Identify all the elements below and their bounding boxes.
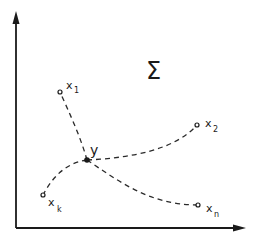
- label-x1: x 1: [66, 79, 79, 95]
- label-x2-sub: 2: [213, 125, 218, 134]
- point-x2-marker: [195, 123, 199, 127]
- geodesic-curves: [43, 92, 198, 205]
- endpoints: [41, 90, 200, 207]
- label-x2: x 2: [205, 117, 218, 134]
- label-xk-sub: k: [57, 205, 62, 214]
- label-xk-base: x: [48, 196, 55, 209]
- curve-y-xn: [87, 160, 198, 205]
- label-x2-base: x: [205, 117, 212, 130]
- point-x1-marker: [58, 90, 62, 94]
- label-x1-sub: 1: [74, 86, 79, 95]
- label-xn-base: x: [206, 202, 213, 215]
- curve-y-xk: [43, 160, 87, 195]
- center-point-marker: [84, 157, 90, 163]
- label-x1-base: x: [66, 79, 73, 92]
- diagram-canvas: Σ y x 1 x 2 x k x n: [0, 0, 258, 241]
- label-xn-sub: n: [214, 210, 219, 219]
- curve-y-x2: [87, 125, 197, 160]
- curve-y-x1: [60, 92, 87, 160]
- set-label-sigma: Σ: [146, 57, 161, 85]
- label-xn: x n: [206, 202, 219, 219]
- point-xn-marker: [196, 203, 200, 207]
- x-axis-arrow-icon: [233, 225, 246, 232]
- point-xk-marker: [41, 193, 45, 197]
- y-axis-arrow-icon: [13, 11, 20, 24]
- label-xk: x k: [48, 196, 62, 214]
- label-y: y: [90, 142, 98, 158]
